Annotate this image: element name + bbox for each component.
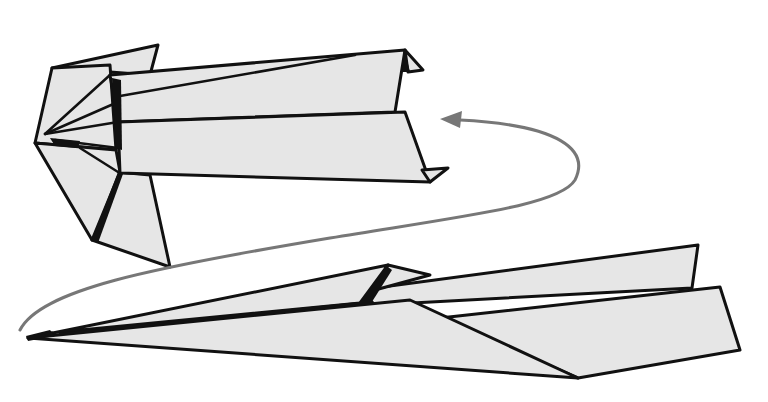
plane-rear-view (35, 45, 448, 267)
diagram-svg (0, 0, 768, 402)
plane-side-view (26, 245, 740, 378)
lower-wing (118, 112, 430, 182)
diagram-canvas: Paper airplane flight illustration (0, 0, 768, 402)
arrowhead-icon (440, 111, 462, 128)
